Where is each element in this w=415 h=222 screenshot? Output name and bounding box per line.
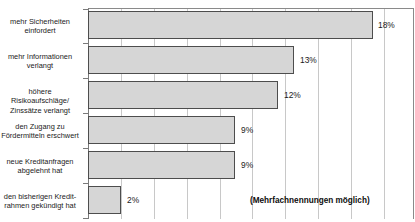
bar-kreditrahmen-gekuendigt[interactable] — [88, 186, 121, 214]
footnote-multiple-answers: (Mehrfachnennungen möglich) — [250, 196, 370, 205]
y-axis-tick — [83, 218, 89, 219]
category-label: höhere Risikoaufschläge/ Zinssätze verla… — [0, 87, 80, 115]
bar-value-label: 9% — [241, 160, 253, 170]
y-axis-tick — [83, 183, 89, 184]
category-label-line2: einfordert — [24, 26, 55, 35]
bar-value-label: 13% — [300, 55, 317, 65]
category-label-line2: rahmen gekündigt hat — [4, 201, 76, 210]
y-axis-tick — [83, 9, 89, 10]
grid-line — [384, 8, 385, 219]
category-label: den Zugang zu Fördermitteln erschwert — [0, 122, 80, 141]
grid-line — [154, 8, 155, 219]
grid-line — [252, 8, 253, 219]
bar-value-label: 18% — [378, 20, 395, 30]
bar-value-label: 2% — [127, 195, 139, 205]
grid-line — [318, 8, 319, 219]
bar-value-label: 12% — [284, 90, 301, 100]
category-label-line2: Fördermitteln erschwert — [1, 131, 79, 140]
bar-zugang-foerdermittel[interactable] — [88, 116, 235, 144]
bar-mehr-sicherheiten[interactable] — [88, 11, 373, 39]
bar-kreditanfragen-abgelehnt[interactable] — [88, 151, 235, 179]
grid-line — [285, 8, 286, 219]
bar-hoehere-risikoaufschlaege[interactable] — [88, 81, 278, 109]
category-label-line1: neue Kreditanfragen — [7, 157, 74, 166]
category-label-line1: mehr Informationen — [8, 52, 72, 61]
grid-line — [220, 8, 221, 219]
category-label-line2: verlangt — [27, 61, 53, 70]
y-axis-tick — [83, 148, 89, 149]
plot-right-border — [413, 8, 414, 219]
bar-value-label: 9% — [241, 125, 253, 135]
grid-line — [121, 8, 122, 219]
grid-line — [351, 8, 352, 219]
category-label: neue Kreditanfragen abgelehnt hat — [0, 157, 80, 176]
bar-mehr-informationen[interactable] — [88, 46, 294, 74]
category-label-line1: mehr Sicherheiten — [10, 17, 70, 26]
plot-top-border — [88, 8, 414, 9]
category-label-line2: abgelehnt hat — [18, 166, 63, 175]
category-label: den bisherigen Kredit- rahmen gekündigt … — [0, 192, 80, 211]
y-axis-tick — [83, 78, 89, 79]
category-label-line2: Zinssätze verlangt — [10, 106, 70, 115]
y-axis-tick — [83, 113, 89, 114]
bar-chart: mehr Sicherheiten einfordert 18% mehr In… — [0, 0, 415, 222]
category-label: mehr Informationen verlangt — [0, 52, 80, 71]
category-label-line1: den bisherigen Kredit- — [4, 192, 76, 201]
grid-line — [187, 8, 188, 219]
category-label-line1: den Zugang zu — [15, 122, 64, 131]
category-label: mehr Sicherheiten einfordert — [0, 17, 80, 36]
category-label-line1: höhere Risikoaufschläge/ — [11, 87, 69, 105]
y-axis-tick — [83, 43, 89, 44]
